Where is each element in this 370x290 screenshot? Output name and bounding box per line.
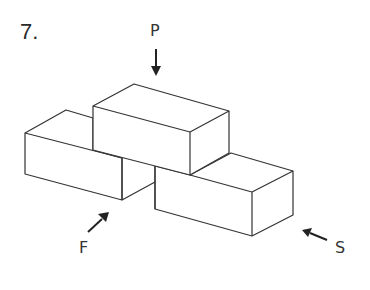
block-diagram	[0, 0, 370, 290]
arrow-down-icon	[151, 49, 161, 76]
arrow-up-left-icon	[302, 228, 327, 240]
arrow-up-right-icon	[88, 212, 109, 232]
